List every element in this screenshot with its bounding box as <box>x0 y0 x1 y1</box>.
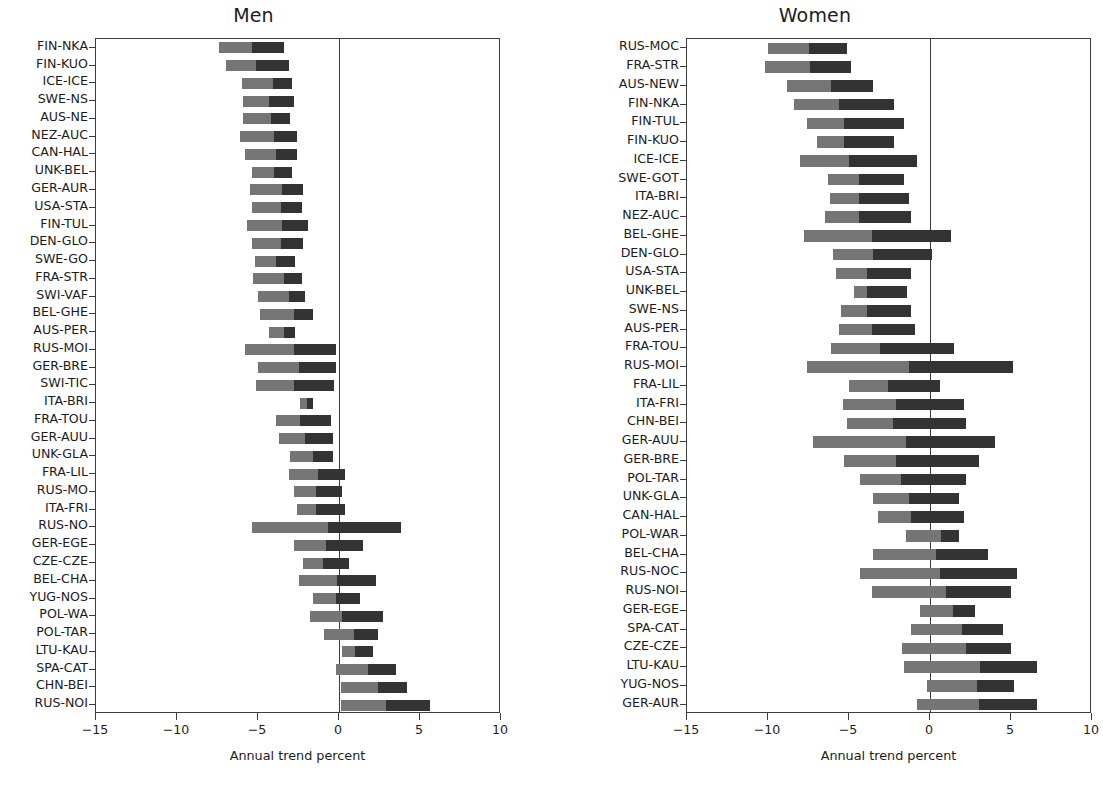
bar-segment-late <box>940 568 1018 580</box>
bar-segment-late <box>809 43 848 55</box>
bar-row <box>96 60 499 71</box>
bar-segment-late <box>839 99 894 111</box>
bar-segment-early <box>817 136 845 148</box>
bar-row <box>687 680 1090 692</box>
bar-segment-late <box>276 256 295 267</box>
bar-segment-early <box>250 184 282 195</box>
bar-row <box>96 700 499 711</box>
bar-segment-early <box>904 661 980 673</box>
bar-row <box>96 540 499 551</box>
bar-segment-early <box>878 511 910 523</box>
bar-row <box>96 646 499 657</box>
bar-segment-late <box>844 118 904 130</box>
bar-row <box>96 238 499 249</box>
bar-row <box>687 455 1090 467</box>
bar-segment-early <box>847 418 892 430</box>
bar-segment-early <box>226 60 257 71</box>
bar-row <box>687 380 1090 392</box>
bar-segment-late <box>979 699 1037 711</box>
bar-segment-late <box>274 131 297 142</box>
bar-segment-late <box>867 286 908 298</box>
bar-row <box>96 256 499 267</box>
bar-segment-early <box>804 230 872 242</box>
bar-row <box>687 343 1090 355</box>
bar-row <box>687 324 1090 336</box>
x-axis-tick <box>686 713 687 720</box>
bar-segment-early <box>860 474 901 486</box>
x-axis-tick-label: −5 <box>248 722 267 737</box>
bar-segment-early <box>297 504 316 515</box>
bar-row <box>687 136 1090 148</box>
x-axis-tick-label: 0 <box>334 722 342 737</box>
bar-segment-early <box>269 327 284 338</box>
bar-segment-early <box>260 309 294 320</box>
bar-segment-early <box>240 131 274 142</box>
bar-segment-early <box>911 624 963 636</box>
bar-segment-late <box>911 511 964 523</box>
bar-segment-late <box>284 273 302 284</box>
bar-segment-early <box>813 436 905 448</box>
bar-segment-late <box>386 700 430 711</box>
bar-row <box>687 661 1090 673</box>
bar-row <box>96 327 499 338</box>
bar-segment-early <box>800 155 849 167</box>
bar-row <box>96 291 499 302</box>
bar-row <box>687 474 1090 486</box>
bar-row <box>96 273 499 284</box>
x-axis-tick-label: −10 <box>754 722 781 737</box>
bar-row <box>96 42 499 53</box>
bar-segment-late <box>281 202 302 213</box>
bar-segment-early <box>906 530 942 542</box>
bar-segment-early <box>256 380 293 391</box>
bar-segment-late <box>873 249 931 261</box>
bar-segment-late <box>368 664 396 675</box>
bar-row <box>96 362 499 373</box>
bar-segment-early <box>310 611 342 622</box>
bar-segment-late <box>859 193 909 205</box>
bar-segment-late <box>880 343 955 355</box>
bar-segment-late <box>953 605 976 617</box>
x-axis-tick-label: −15 <box>82 722 109 737</box>
bar-segment-late <box>859 211 911 223</box>
bar-segment-early <box>873 549 936 561</box>
bar-segment-late <box>867 268 911 280</box>
bar-row <box>687 80 1090 92</box>
bar-segment-late <box>901 474 966 486</box>
bar-segment-late <box>271 113 290 124</box>
bar-segment-late <box>896 455 979 467</box>
bar-row <box>96 415 499 426</box>
bar-segment-early <box>807 118 844 130</box>
bar-segment-late <box>294 309 313 320</box>
x-axis-tick-label: 0 <box>925 722 933 737</box>
bar-row <box>687 211 1090 223</box>
bar-segment-early <box>299 575 338 586</box>
bar-segment-early <box>839 324 871 336</box>
bar-row <box>687 61 1090 73</box>
bar-segment-early <box>258 291 289 302</box>
x-axis-ticks-men <box>95 713 500 720</box>
bar-row <box>687 99 1090 111</box>
bar-segment-late <box>849 155 917 167</box>
bar-segment-early <box>902 643 965 655</box>
bar-segment-late <box>872 230 951 242</box>
bar-row <box>687 43 1090 55</box>
bar-row <box>96 451 499 462</box>
bar-row <box>687 568 1090 580</box>
bar-segment-early <box>854 286 867 298</box>
bar-segment-late <box>305 433 333 444</box>
bar-segment-late <box>318 469 346 480</box>
bar-row <box>687 230 1090 242</box>
bar-segment-early <box>243 113 271 124</box>
bar-segment-early <box>243 96 269 107</box>
bar-row <box>687 361 1090 373</box>
bar-segment-early <box>807 361 909 373</box>
bar-segment-early <box>252 167 275 178</box>
bar-segment-late <box>936 549 988 561</box>
bar-segment-early <box>219 42 251 53</box>
bar-segment-late <box>323 558 349 569</box>
bar-row <box>687 399 1090 411</box>
bar-row <box>96 682 499 693</box>
bar-segment-late <box>269 96 293 107</box>
bar-segment-early <box>253 273 284 284</box>
bar-segment-late <box>337 575 376 586</box>
